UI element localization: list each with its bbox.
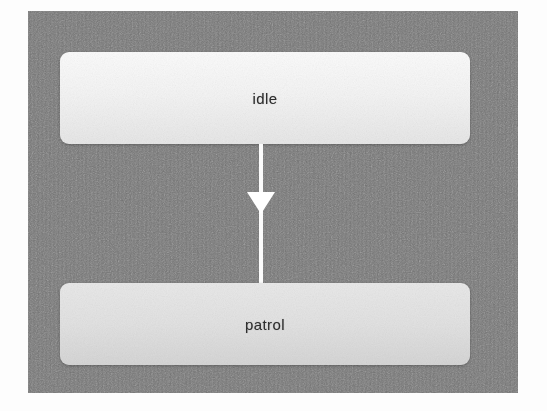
state-node-idle-label: idle [253, 90, 278, 107]
state-node-patrol[interactable]: patrol [60, 283, 470, 365]
transition-arrowhead [247, 192, 275, 214]
diagram-canvas[interactable]: idle patrol [28, 11, 518, 393]
diagram-page: idle patrol [0, 0, 547, 411]
state-node-idle[interactable]: idle [60, 52, 470, 144]
state-node-patrol-label: patrol [245, 316, 285, 333]
